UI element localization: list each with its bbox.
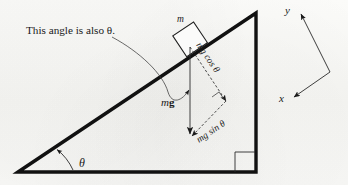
x-axis-label: x [278,92,284,104]
callout-leader [112,37,189,100]
mg-sin-theta-label: mg sin θ [194,117,227,144]
mg-label-g: g [169,96,175,108]
figure-canvas: θ m This angle is also θ. mg mg cos [0,0,348,185]
theta-arc [57,150,73,171]
svg-text:mg: mg [161,96,175,108]
inclined-plane-diagram: θ m This angle is also θ. mg mg cos [0,0,348,185]
x-axis-arrow [294,72,330,97]
y-axis-arrow [301,14,330,72]
right-angle-square [235,152,255,172]
callout-text: This angle is also θ. [26,24,115,36]
theta-angle-label: θ [79,156,85,170]
base-angle-theta [57,150,73,171]
mg-label-m: m [161,96,169,108]
callout-leader-curve [112,37,189,100]
incline-triangle-outline [18,13,256,172]
block-mass-label: m [177,14,184,24]
right-angle-marker [235,152,255,172]
incline-triangle [18,13,256,172]
mg-vector-label: mg [161,96,175,108]
component-right-angle-square [212,92,224,99]
y-axis-label: y [284,4,290,16]
component-right-angle-marker [212,92,224,99]
coordinate-axes [294,14,330,97]
